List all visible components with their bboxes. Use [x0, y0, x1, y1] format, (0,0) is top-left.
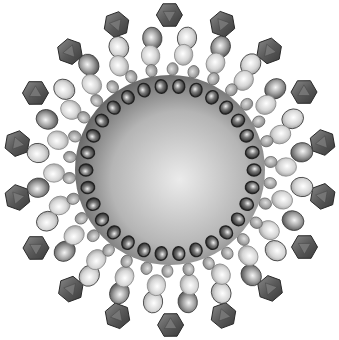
polyhedron-unit — [104, 12, 128, 38]
polyhedron-unit — [292, 236, 318, 259]
small-bead-item — [167, 63, 178, 76]
inner-dark-bead-item — [172, 79, 185, 94]
small-bead-item — [162, 265, 173, 278]
mixed-sphere-item — [279, 207, 307, 233]
polyhedron-unit — [211, 303, 235, 329]
mixed-sphere-item — [50, 75, 79, 104]
particle-diagram — [0, 0, 339, 340]
small-bead-item — [263, 177, 277, 190]
polyhedron-unit — [105, 303, 129, 329]
light-sphere-item — [45, 129, 70, 152]
mixed-sphere-item — [290, 176, 314, 198]
light-sphere-item — [275, 158, 296, 177]
polyhedron-unit — [156, 4, 182, 27]
mixed-sphere-item — [26, 142, 50, 164]
polyhedron-unit — [23, 237, 49, 260]
small-bead-item — [182, 262, 195, 276]
small-bead-item — [63, 151, 77, 164]
polyhedron-unit — [210, 11, 234, 37]
polyhedron-unit — [5, 131, 29, 157]
light-sphere-item — [234, 242, 262, 270]
small-bead-item — [145, 63, 158, 77]
inner-dark-bead-item — [79, 164, 93, 176]
polyhedron-unit — [5, 185, 30, 211]
particle-core — [75, 75, 265, 265]
inner-dark-bead-item — [155, 246, 168, 261]
light-sphere-item — [270, 188, 295, 211]
inner-dark-bead-item — [247, 164, 261, 176]
inner-dark-bead-item — [155, 79, 168, 94]
inner-dark-bead-item — [172, 246, 185, 261]
polyhedron-unit — [291, 81, 317, 104]
polyhedron-unit — [23, 82, 49, 105]
polyhedron-unit — [310, 130, 335, 156]
polyhedron-unit — [58, 39, 82, 65]
polyhedron-unit — [311, 184, 335, 210]
mixed-sphere-item — [261, 236, 290, 265]
particle-svg — [0, 0, 339, 340]
light-sphere-item — [78, 70, 106, 98]
light-sphere-item — [43, 164, 64, 183]
polyhedron-unit — [258, 276, 283, 302]
polyhedron-unit — [158, 314, 184, 337]
mixed-sphere-item — [33, 106, 61, 132]
